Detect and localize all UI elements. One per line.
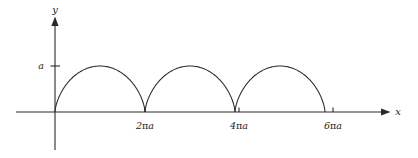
cycloid-arch-2: [145, 66, 235, 112]
y-axis-label: y: [51, 4, 58, 15]
x-tick-label-6pia: 6πa: [324, 120, 342, 131]
x-tick-label-6pia-unit: a: [336, 120, 342, 131]
x-tick-label-2pia-coefficient: 2: [135, 120, 142, 131]
cycloid-figure: x y a 2πa 4πa 6πa: [0, 0, 418, 158]
y-tick-label-a: a: [38, 60, 44, 71]
x-tick-label-4pia-coefficient: 4: [229, 120, 236, 131]
x-tick-label-4pia: 4πa: [229, 120, 248, 131]
x-axis-label: x: [395, 106, 401, 117]
plot-canvas: x y a 2πa 4πa 6πa: [0, 0, 418, 158]
x-axis-arrowhead: [381, 108, 391, 115]
cycloid-arch-3: [235, 66, 325, 112]
x-tick-label-2pia: 2πa: [135, 120, 154, 131]
x-tick-label-2pia-unit: a: [148, 120, 154, 131]
x-tick-label-4pia-unit: a: [242, 120, 248, 131]
cycloid-arch-1: [55, 66, 145, 112]
y-axis-arrowhead: [51, 17, 58, 27]
